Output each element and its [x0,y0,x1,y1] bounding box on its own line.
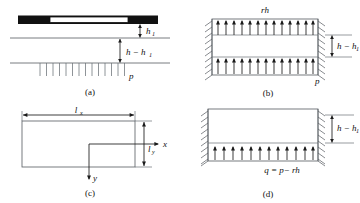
label-h-minus-h1-b: h − h [337,41,357,51]
dim-hh1-arrowhead-up [118,39,122,42]
top-load-arrows [216,20,315,35]
panel-d: h − h 1 q = p− rh (d) [182,101,360,203]
left-support-hatching [205,19,212,80]
dim-hh1-arrowhead-down-b [330,53,334,56]
pressure-comb [40,63,125,76]
bottom-load-arrows [216,58,315,74]
ly-arrowhead-top [142,122,146,126]
label-p-bottom: p [314,76,320,86]
y-axis-arrowhead [87,175,91,180]
label-h-minus-h1: h − h [126,47,146,57]
label-lx-subscript: x [79,109,83,116]
label-h-minus-h1-subscript: 1 [149,51,152,58]
dim-hh1-arrowhead-down [118,59,122,62]
panel-d-caption: (d) [263,189,274,199]
lx-arrowhead-left [23,113,27,117]
panel-b: rh [182,0,360,102]
ly-arrowhead-bottom [142,162,146,166]
dim-hh1-arrowhead-down-d [330,139,334,142]
panel-c-caption: (c) [85,188,95,198]
right-support-hatching [318,19,325,80]
lx-arrowhead-right [130,113,134,117]
label-q-equation: q = p− rh [264,165,300,175]
label-rh: rh [261,5,269,15]
body-rectangle-d [208,109,318,161]
label-h-minus-h1-b-subscript: 1 [356,45,359,52]
label-axis-y: y [92,173,97,183]
dim-h1-arrowhead-up [138,25,142,28]
label-h-minus-h1-d: h − h [337,123,357,133]
label-h1: h [146,26,151,36]
panel-c: l x l y y x (c) [0,101,180,203]
label-h1-subscript: 1 [152,30,155,37]
label-p: p [128,71,134,81]
right-support-hatching-d [318,109,325,166]
left-support-hatching-d [201,109,208,166]
x-axis-arrowhead [154,142,159,146]
panel-a-svg: h 1 h − h 1 [0,0,180,102]
panel-a-caption: (a) [85,87,95,97]
panel-c-svg: l x l y y x (c) [0,101,180,203]
net-load-arrows [213,146,315,160]
panel-a: h 1 h − h 1 [0,0,180,102]
label-lx: l [75,105,78,115]
dim-hh1-arrowhead-up-d [330,116,334,119]
slab-cavity [50,17,128,23]
dim-hh1-arrowhead-up-b [330,36,334,39]
panel-b-caption: (b) [263,88,274,98]
figure-root: h 1 h − h 1 [0,0,360,203]
body-rectangle [212,19,318,75]
label-h-minus-h1-d-subscript: 1 [356,127,359,134]
label-axis-x: x [162,139,167,149]
dim-h1-arrowhead-down [138,34,142,37]
panel-d-svg: h − h 1 q = p− rh (d) [182,101,360,203]
label-ly: l [148,144,151,154]
label-ly-subscript: y [151,148,155,155]
panel-b-svg: rh [182,0,360,102]
